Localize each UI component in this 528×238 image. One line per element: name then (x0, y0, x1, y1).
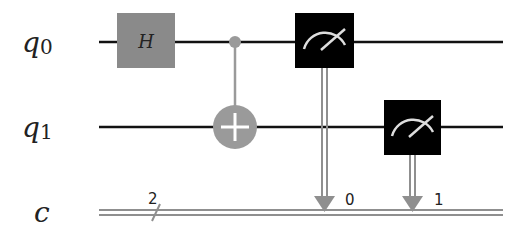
qubit-label-q0: q0 (22, 26, 53, 59)
control-dot-icon (229, 36, 241, 48)
classical-width: 2 (148, 190, 158, 208)
measure-gate-q0: 0 (295, 13, 355, 212)
h-gate: H (117, 13, 175, 68)
wire-classical (99, 210, 503, 215)
cx-gate (213, 36, 257, 149)
clbit-index-0: 0 (345, 191, 355, 209)
qubit-label-q1: q1 (22, 111, 53, 144)
classical-label-c: c (34, 196, 50, 229)
quantum-circuit: q0 q1 c 2 H 0 1 (0, 0, 528, 238)
svg-text:H: H (137, 31, 154, 52)
clbit-index-1: 1 (434, 191, 444, 209)
measure-gate-q1: 1 (384, 100, 444, 212)
